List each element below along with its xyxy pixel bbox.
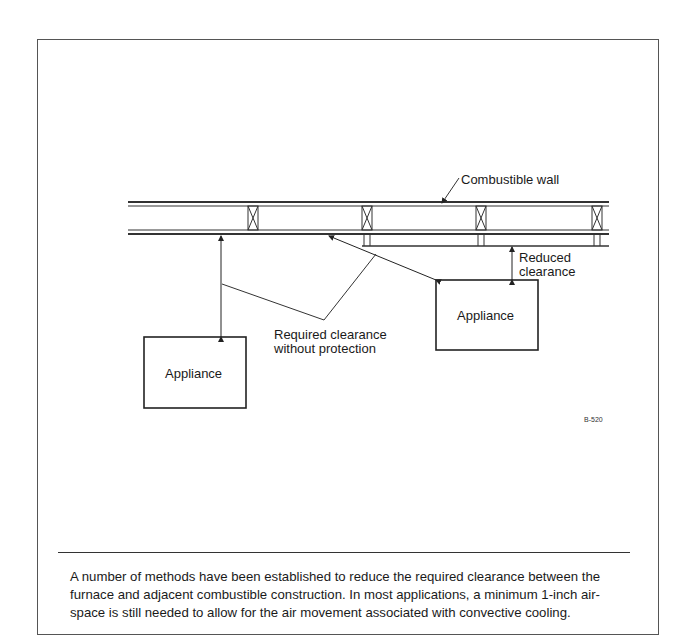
required-clearance-label-line1: Required clearance (274, 327, 387, 342)
required-clearance-leader (222, 254, 376, 320)
caption-separator (58, 552, 630, 553)
caption-line: A number of methods have been establishe… (70, 568, 630, 586)
reduced-clearance-label-line1: Reduced (519, 250, 571, 265)
figure-id: B-520 (584, 416, 603, 423)
caption-line: space is still needed to allow for the a… (70, 604, 630, 622)
combustible-wall-label: Combustible wall (461, 172, 559, 187)
appliance-right-label: Appliance (457, 308, 514, 323)
clearance-diagram (0, 0, 695, 644)
wall-studs (248, 206, 602, 230)
wall-protection-panel (362, 234, 609, 246)
combustible-wall (128, 202, 609, 234)
combustible-wall-leader (442, 178, 459, 203)
reduced-clearance-label-line2: clearance (519, 264, 575, 279)
required-clearance-label-line2: without protection (274, 341, 376, 356)
caption-line: furnace and adjacent combustible constru… (70, 586, 630, 604)
figure-caption: A number of methods have been establishe… (70, 568, 630, 622)
appliance-left-label: Appliance (165, 366, 222, 381)
required-clearance-arrow-diagonal (329, 236, 436, 280)
